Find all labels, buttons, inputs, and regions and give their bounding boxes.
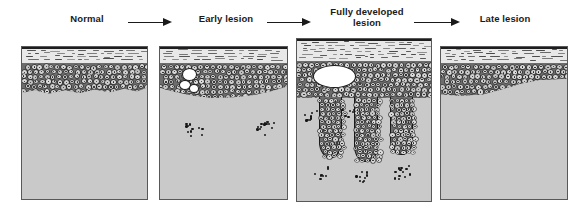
keratin-flake: [44, 52, 50, 53]
keratinocyte: [136, 80, 140, 83]
keratinocyte: [504, 80, 508, 83]
keratinocyte: [130, 74, 135, 79]
panel-early-lesion: [159, 46, 288, 200]
keratinocyte: [44, 64, 49, 68]
keratinocyte: [497, 65, 501, 69]
keratinocyte: [493, 80, 497, 84]
keratinocyte: [92, 84, 97, 89]
panel-normal: [21, 46, 148, 200]
keratinocyte: [99, 75, 103, 79]
keratinocyte: [33, 75, 37, 80]
keratinocyte: [74, 65, 78, 68]
keratinocyte: [485, 90, 489, 94]
inflammatory-cell: [260, 126, 262, 128]
arrow-shaft: [128, 22, 164, 24]
keratinocyte: [515, 65, 519, 69]
keratinocyte: [454, 65, 458, 69]
keratin-flake: [445, 53, 450, 54]
keratinocyte: [55, 85, 59, 88]
keratinocyte: [548, 70, 553, 75]
keratinocyte: [142, 79, 146, 83]
keratin-flake: [501, 53, 506, 54]
keratin-flake: [514, 58, 522, 59]
keratinocyte: [443, 65, 447, 69]
keratinocyte: [507, 70, 511, 74]
panel-late-lesion: [440, 46, 568, 200]
keratinocyte: [101, 80, 105, 83]
keratinocyte: [75, 80, 79, 84]
keratinocyte: [55, 65, 59, 69]
keratin-flake: [454, 60, 458, 61]
keratinocyte: [69, 75, 73, 78]
inflammatory-cell: [409, 173, 411, 175]
keratinocyte: [452, 84, 456, 88]
keratin-flake: [89, 56, 98, 57]
keratinocyte: [67, 84, 72, 89]
keratinocyte: [67, 66, 72, 70]
keratinocyte: [50, 84, 55, 89]
keratinocyte: [483, 85, 488, 90]
stage-label-late-lesion: Late lesion: [470, 14, 540, 25]
keratin-flake: [447, 50, 451, 51]
keratinocyte: [547, 75, 552, 79]
keratinocyte: [140, 64, 144, 68]
keratinocyte: [115, 85, 119, 89]
keratin-flake: [28, 59, 39, 60]
keratinocyte: [112, 70, 117, 74]
keratinocyte: [58, 70, 62, 74]
keratin-flake: [490, 56, 500, 57]
keratinocyte: [459, 70, 464, 75]
keratin-flake: [87, 53, 97, 54]
inflammatory-cell: [264, 134, 266, 136]
keratin-flake: [104, 51, 114, 52]
keratinocyte: [458, 85, 463, 90]
keratinocyte: [471, 70, 475, 74]
inflammatory-cell: [408, 165, 410, 167]
keratinocyte: [456, 80, 460, 84]
keratin-flake: [486, 53, 495, 54]
stage-label-early-lesion: Early lesion: [191, 14, 261, 25]
keratinocyte: [69, 70, 73, 74]
keratin-flake: [125, 56, 133, 57]
inflammatory-cell: [271, 127, 273, 129]
keratinocyte: [475, 74, 480, 79]
keratinocyte: [445, 79, 450, 84]
keratinocyte: [520, 65, 524, 69]
arrow-head-icon: [302, 18, 311, 26]
arrow-normal-to-early: [128, 18, 172, 27]
keratinocyte: [447, 70, 452, 74]
keratinocyte: [121, 84, 125, 88]
inflammatory-cell: [268, 123, 270, 125]
keratinocyte: [129, 80, 133, 84]
keratinocyte: [533, 65, 537, 69]
keratinocyte: [22, 74, 26, 78]
keratin-flake: [63, 56, 73, 57]
keratinocyte: [26, 84, 30, 88]
keratin-flake: [532, 56, 540, 57]
keratin-flake: [540, 52, 551, 53]
keratinocyte: [488, 84, 492, 88]
keratin-flake: [137, 56, 142, 57]
keratinocyte: [470, 74, 475, 79]
keratin-flake: [504, 56, 508, 57]
keratin-flake: [479, 56, 486, 57]
keratin-flake: [139, 59, 143, 60]
keratinocyte: [287, 100, 288, 104]
keratinocyte: [58, 80, 63, 85]
keratin-flake: [464, 51, 470, 52]
keratin-flake: [552, 49, 557, 50]
inflammatory-cell: [398, 178, 400, 180]
stratum-corneum-layer: [22, 47, 147, 64]
keratinocyte: [474, 65, 478, 69]
inflammatory-cell: [394, 171, 396, 173]
keratinocyte: [448, 90, 452, 94]
inflammatory-cell: [402, 171, 404, 173]
keratin-flake: [141, 51, 148, 52]
keratinocyte: [542, 75, 547, 79]
keratin-flake: [26, 56, 33, 57]
stage-label-normal: Normal: [57, 14, 117, 25]
inflammatory-cell: [273, 122, 275, 124]
inflammatory-cell: [263, 123, 265, 125]
keratin-flake: [119, 50, 123, 51]
keratinocyte: [463, 79, 468, 84]
